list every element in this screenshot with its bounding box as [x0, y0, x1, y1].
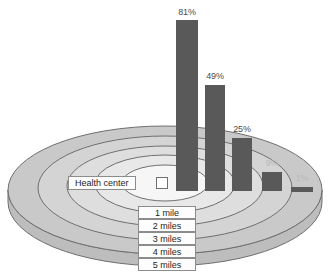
bar-value-label-3-miles: 25%: [223, 124, 261, 134]
bar-5-miles: [291, 187, 313, 192]
bar-value-label-4-miles: 9%: [254, 158, 290, 168]
bar-value-label-1-mile: 81%: [168, 7, 206, 17]
bar-value-label-2-miles: 49%: [196, 71, 234, 81]
bar-1-mile: [176, 20, 198, 191]
health-center-marker-icon: [156, 177, 168, 189]
ring-label-2-miles: 2 miles: [138, 219, 196, 232]
bar-value-label-5-miles: 1%: [285, 173, 319, 183]
health-center-label: Health center: [68, 176, 136, 190]
bar-3-miles: [232, 138, 252, 191]
ring-label-5-miles: 5 miles: [138, 258, 196, 271]
bar-4-miles: [262, 172, 282, 191]
ring-label-1-mile: 1 mile: [138, 206, 196, 219]
ring-label-3-miles: 3 miles: [138, 232, 196, 245]
figure-canvas: 81% 49% 25% 9% 1% Health center 1 mile 2…: [0, 0, 331, 278]
ring-label-4-miles: 4 miles: [138, 245, 196, 258]
bar-2-miles: [205, 85, 225, 191]
